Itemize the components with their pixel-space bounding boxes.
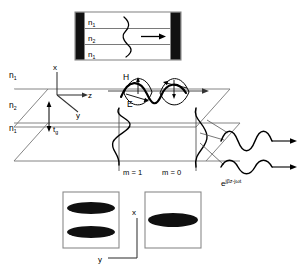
waveguide-mode-figure: n1 n2 n1 [0,0,305,278]
output-phase-label: ejβz-jωt [221,178,242,188]
e-field-lobe-two [160,92,189,105]
output-wave-upper-arrow [290,138,297,144]
waveguide-index-label-n1-top: n1 [9,70,17,81]
waveguide-axes: x z y [53,63,92,120]
thickness-arrow-down [47,126,52,132]
thickness-label-tg: tg [53,125,58,135]
mode-panel-axis-label-y: y [98,255,102,264]
top-cross-section-panel: n1 n2 n1 [75,12,181,60]
output-wave-lower-arrow [290,164,297,170]
output-wave-lower-curve [221,160,272,174]
mode-panel-axis-label-x: x [132,208,136,217]
mode-panel-left-border [63,192,119,248]
output-leader-lines [200,120,228,165]
output-wave-upper [221,131,297,151]
mode-label-m0: m = 0 [162,168,181,177]
mode-panel-left-lobe-lower [67,226,115,238]
axis-label-x: x [53,63,57,72]
axis-label-y: y [76,111,80,120]
thickness-arrow-up [47,101,52,107]
mode-profile-m1 [112,108,130,171]
mode-panel-left-lobe-upper [67,202,115,214]
y-axis-line [57,95,78,112]
mode-label-m1: m = 1 [123,168,142,177]
mode-intensity-panels: x y [63,192,201,264]
mode-panel-right-lobe [148,213,198,227]
axis-label-z: z [88,91,92,100]
mode-panel-right [145,192,201,248]
waveguide-3d-diagram: n1 n2 n1 x z y tg [9,63,297,188]
mode-profile-m0 [195,108,207,171]
guide-thickness-indicator: tg [47,101,59,135]
left-end-block [76,13,85,60]
output-wave-upper-curve [221,131,272,151]
waveguide-index-label-n2-core: n2 [9,100,17,111]
mode-m1-curve [112,108,130,165]
right-end-block [171,13,181,60]
output-wave-lower [221,160,297,174]
e-field-label: E [127,99,133,109]
field-wave-group: H E [108,72,209,109]
mode-panel-left [63,192,119,248]
h-field-label: H [123,72,129,82]
